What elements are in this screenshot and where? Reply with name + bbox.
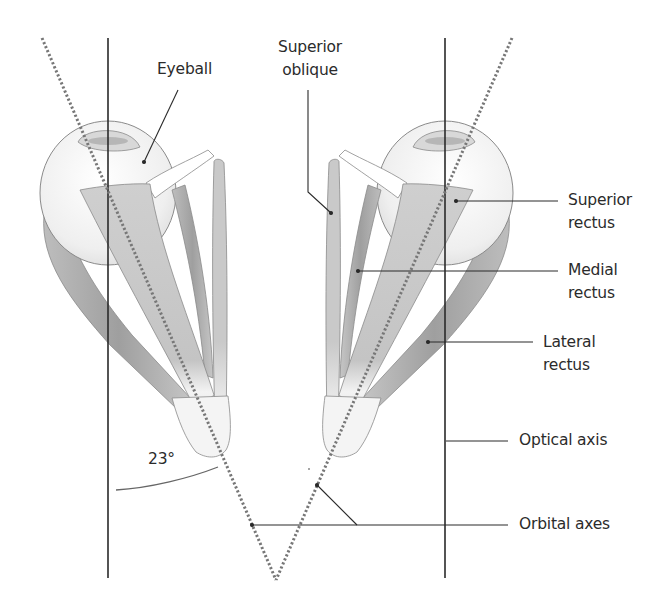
label-orbital-axes: Orbital axes: [519, 513, 610, 536]
label-medial-rectus: Medial rectus: [568, 259, 618, 305]
right-orbital-axis: [276, 38, 512, 580]
label-superior-oblique: Superior oblique: [273, 36, 347, 82]
label-optical-axis: Optical axis: [519, 429, 607, 452]
leader-orbital-axes-right: [317, 485, 357, 525]
left-orbital-axis: [42, 38, 276, 580]
left-annulus-of-zinn: [172, 396, 230, 457]
label-eyeball: Eyeball: [157, 58, 212, 81]
angle-label: 23°: [148, 448, 175, 471]
anatomy-diagram: Eyeball Superior oblique Superior rectus…: [0, 0, 661, 602]
right-superior-oblique: [326, 159, 340, 420]
label-lateral-rectus: Lateral rectus: [543, 331, 596, 377]
left-superior-oblique: [213, 159, 227, 420]
label-superior-rectus: Superior rectus: [568, 189, 632, 235]
diagram-canvas: [0, 0, 661, 602]
